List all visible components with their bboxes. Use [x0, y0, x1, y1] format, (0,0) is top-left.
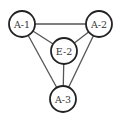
node-a3: A-3 — [50, 86, 76, 112]
node-e2: E-2 — [51, 38, 77, 64]
node-a2: A-2 — [86, 11, 112, 37]
node-a3-label: A-3 — [54, 94, 71, 105]
graph-diagram: A-1 A-2 E-2 A-3 — [0, 0, 124, 119]
node-e2-label: E-2 — [56, 46, 72, 57]
node-a2-label: A-2 — [90, 19, 107, 30]
node-a1: A-1 — [9, 11, 35, 37]
node-a1-label: A-1 — [13, 19, 30, 30]
